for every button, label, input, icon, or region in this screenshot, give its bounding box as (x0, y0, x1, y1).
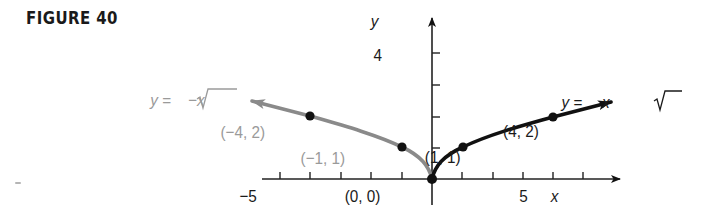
equation-label-sqrt-x: y = x (561, 91, 682, 111)
svg-text:x: x (601, 92, 610, 111)
svg-text:y =: y = (561, 92, 583, 111)
x-axis-label: x (550, 186, 559, 205)
point-neg1-1 (397, 142, 406, 151)
point-label-4-2: (4, 2) (503, 121, 539, 140)
point-4-2 (548, 112, 557, 121)
point-label-origin: (0, 0) (345, 186, 381, 205)
equation-label-sqrt-neg-x: y = −x (149, 89, 237, 109)
point-neg4-2 (305, 111, 314, 120)
point-label-1-1: (1, 1) (425, 147, 461, 166)
y-axis-label: y (370, 11, 379, 30)
series-sqrt-x: (1, 1) (4, 2) y = x (425, 91, 682, 179)
series-sqrt-neg-x: (−1, 1) (−4, 2) y = −x (149, 89, 432, 179)
x-tick-label-neg5: −5 (239, 186, 256, 205)
svg-text:−x: −x (188, 90, 205, 109)
y-tick-label-4: 4 (374, 45, 383, 64)
point-origin (427, 174, 437, 184)
point-label-neg4-2: (−4, 2) (221, 122, 266, 141)
y-axis-ticks (432, 53, 440, 148)
svg-text:y =: y = (149, 90, 171, 109)
chart-canvas: −5 5 x 4 y (−1, 1) (−4, 2) y = −x (0, 0, 713, 205)
x-tick-label-5: 5 (519, 186, 528, 205)
point-label-neg1-1: (−1, 1) (301, 148, 346, 167)
